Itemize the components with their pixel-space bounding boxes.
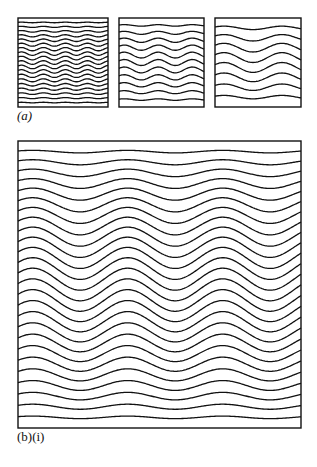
wave-line: [18, 43, 108, 46]
wave-line: [18, 56, 108, 60]
wave-line: [18, 102, 108, 103]
wave-line: [18, 93, 108, 95]
label-b-i: (b)(i): [17, 429, 44, 445]
wave-line: [18, 369, 301, 381]
wave-line: [119, 75, 204, 80]
wave-line: [119, 83, 204, 87]
panel-a1: [17, 17, 109, 108]
wave-line: [119, 67, 204, 73]
wave-line: [18, 79, 108, 82]
wave-line: [18, 404, 301, 409]
wave-line: [215, 84, 301, 90]
wave-line: [18, 179, 301, 189]
wave-line: [18, 48, 108, 51]
wave-line: [18, 323, 301, 342]
wave-line: [18, 83, 108, 86]
wave-line: [215, 73, 301, 82]
panel-a2: [118, 17, 205, 108]
wave-line: [119, 38, 204, 42]
wave-line: [119, 99, 204, 101]
wave-line: [215, 26, 301, 29]
wave-line: [18, 22, 108, 23]
wave-line: [18, 392, 301, 400]
wave-line: [215, 43, 301, 52]
wave-line: [18, 169, 301, 177]
wave-line: [18, 74, 108, 77]
wave-line: [18, 31, 108, 33]
wave-line: [18, 52, 108, 55]
panel-a3: [214, 17, 302, 108]
wave-line: [119, 31, 204, 34]
wave-line: [18, 381, 301, 391]
wave-line: [215, 95, 301, 98]
wave-line: [18, 98, 108, 99]
wave-line: [18, 70, 108, 73]
wave-line: [18, 39, 108, 42]
wave-line: [18, 88, 108, 90]
wave-line: [119, 25, 204, 27]
wave-line: [119, 60, 204, 66]
wave-line: [18, 312, 301, 332]
wave-line: [215, 63, 301, 73]
wave-line: [18, 160, 301, 165]
wave-line: [18, 416, 301, 419]
wave-line: [18, 65, 108, 69]
wave-line: [215, 35, 301, 41]
wave-line: [119, 52, 204, 58]
wave-line: [18, 61, 108, 65]
label-a: (a): [17, 108, 32, 124]
wave-line: [18, 188, 301, 200]
wave-line: [18, 26, 108, 27]
wave-line: [119, 91, 204, 94]
wave-line: [18, 150, 301, 153]
wave-line: [18, 237, 301, 257]
wave-line: [18, 198, 301, 212]
wave-line: [18, 35, 108, 37]
wave-line: [215, 53, 301, 63]
wave-line: [119, 45, 204, 50]
panel-b-i: [17, 140, 302, 429]
